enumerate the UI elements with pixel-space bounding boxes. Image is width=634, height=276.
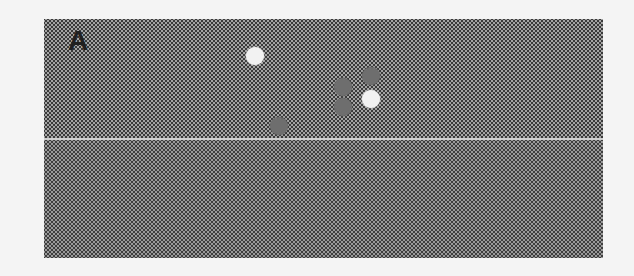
- white-dot: [246, 47, 264, 65]
- gray-dot: [362, 67, 380, 85]
- upper-region: [44, 19, 603, 138]
- gray-dot: [334, 98, 352, 116]
- white-dot: [362, 90, 380, 108]
- gray-dot: [334, 78, 352, 96]
- gray-dot: [270, 117, 288, 135]
- figure-panel: A: [44, 19, 603, 258]
- lower-region: [44, 140, 603, 258]
- panel-label: A: [68, 25, 88, 57]
